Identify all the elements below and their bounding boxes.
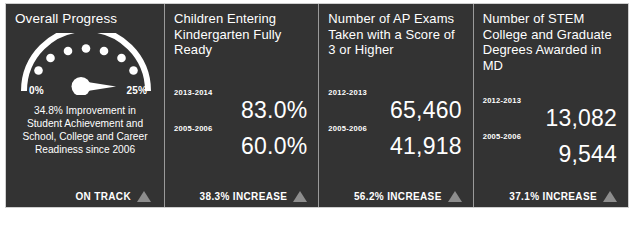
metric-value: 41,918 xyxy=(328,133,463,159)
metric-year: 2013-2014 xyxy=(174,88,309,97)
metric-year: 2005-2006 xyxy=(174,124,309,133)
metric-value: 13,082 xyxy=(483,105,619,131)
metric-row: 2013-2014 83.0% xyxy=(174,88,309,123)
gauge-tick-dot xyxy=(64,46,73,55)
metric-value: 9,544 xyxy=(483,141,619,167)
metric-list: 2013-2014 83.0% 2005-2006 60.0% xyxy=(174,88,309,160)
metric-value: 83.0% xyxy=(174,97,309,123)
panel-title: Number of STEM College and Graduate Degr… xyxy=(483,11,619,73)
status-label: ON TRACK xyxy=(75,191,131,202)
metric-year: 2005-2006 xyxy=(328,124,463,133)
metric-row: 2012-2013 13,082 xyxy=(483,96,619,131)
gauge-tick-dot xyxy=(100,46,109,55)
panel-title: Overall Progress xyxy=(15,11,155,27)
metric-year: 2012-2013 xyxy=(328,88,463,97)
gauge-tick-dot xyxy=(34,66,43,75)
status-badge: 56.2% INCREASE xyxy=(328,191,463,203)
metric-list: 2012-2013 13,082 2005-2006 9,544 xyxy=(483,96,619,168)
triangle-up-icon xyxy=(448,191,462,202)
gauge-tick-dot xyxy=(129,66,138,75)
status-badge: ON TRACK xyxy=(15,191,155,203)
panel-title: Children Entering Kindergarten Fully Rea… xyxy=(174,11,309,58)
status-label: 38.3% INCREASE xyxy=(200,191,288,202)
panel-kindergarten-readiness: Children Entering Kindergarten Fully Rea… xyxy=(164,4,318,207)
status-label: 37.1% INCREASE xyxy=(509,191,597,202)
gauge-tick-dot xyxy=(82,44,91,53)
metric-row: 2012-2013 65,460 xyxy=(328,88,463,123)
triangle-up-icon xyxy=(293,191,307,202)
progress-gauge: 0% 25% xyxy=(15,33,157,95)
panel-title: Number of AP Exams Taken with a Score of… xyxy=(328,11,463,58)
gauge-needle xyxy=(72,77,117,95)
metric-row: 2005-2006 9,544 xyxy=(483,132,619,167)
metric-row: 2005-2006 41,918 xyxy=(328,124,463,159)
panel-ap-exams: Number of AP Exams Taken with a Score of… xyxy=(318,4,472,207)
metric-value: 65,460 xyxy=(328,97,463,123)
panel-overall-progress: Overall Progress 0% 25% 34.8% Improvemen… xyxy=(6,4,164,207)
progress-caption: 34.8% Improvement in Student Achievement… xyxy=(15,104,155,157)
metric-row: 2005-2006 60.0% xyxy=(174,124,309,159)
status-badge: 38.3% INCREASE xyxy=(174,191,309,203)
metric-list: 2012-2013 65,460 2005-2006 41,918 xyxy=(328,88,463,160)
metric-year: 2012-2013 xyxy=(483,96,619,105)
status-label: 56.2% INCREASE xyxy=(354,191,442,202)
progress-dashboard: Overall Progress 0% 25% 34.8% Improvemen… xyxy=(5,3,629,208)
triangle-up-icon xyxy=(137,191,151,202)
metric-value: 60.0% xyxy=(174,133,309,159)
metric-year: 2005-2006 xyxy=(483,132,619,141)
status-badge: 37.1% INCREASE xyxy=(483,191,619,203)
gauge-tick-dot xyxy=(46,53,55,62)
gauge-tick-dot xyxy=(117,53,126,62)
panel-stem-degrees: Number of STEM College and Graduate Degr… xyxy=(473,4,628,207)
gauge-max-label: 25% xyxy=(126,85,147,96)
gauge-min-label: 0% xyxy=(29,85,44,96)
triangle-up-icon xyxy=(603,191,617,202)
